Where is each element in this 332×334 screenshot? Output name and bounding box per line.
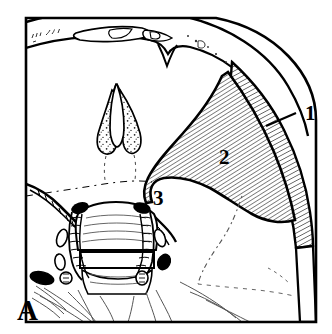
callout-1-label: 1 [305,101,316,125]
anatomical-drawing: 1 2 3 A [0,0,332,334]
callout-2: 2 [219,145,230,169]
panel-label: A [17,294,38,326]
lower-plain-band-segment [296,246,316,322]
callout-3: 3 [153,186,164,210]
callout-2-label: 2 [219,145,230,169]
callout-3-label: 3 [153,186,164,210]
figure-panel-a: 1 2 3 A [0,0,332,334]
